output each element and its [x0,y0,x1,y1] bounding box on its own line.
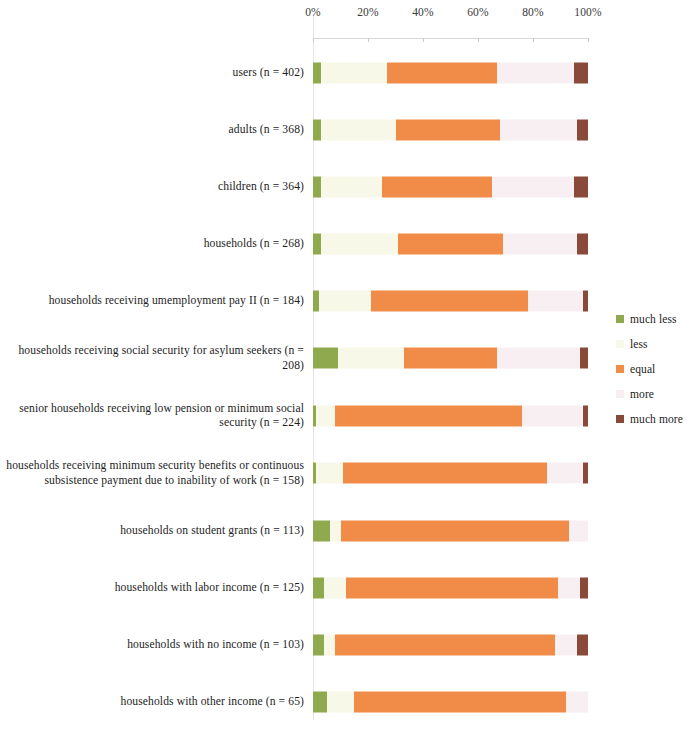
bar-segment-much-more [580,577,588,598]
bar-segment-less [330,520,341,541]
chart-row: households receiving minimum security be… [0,444,691,502]
bar-segment-more [528,290,583,311]
x-tick-mark [368,38,369,42]
bar-segment-much-more [577,233,588,254]
chart-row: households with no income (n = 103) [0,616,691,673]
bar-segment-much-less [313,62,321,83]
bar-segment-much-less [313,176,321,197]
x-tick-label: 20% [357,6,379,18]
chart-row: adults (n = 368) [0,101,691,158]
legend-swatch-icon [616,340,624,348]
bar-segment-less [338,348,404,369]
stacked-bar [313,119,588,140]
x-tick-mark [478,38,479,42]
bar-segment-more [497,62,574,83]
x-tick-mark [313,38,314,42]
row-category-label: users (n = 402) [4,65,304,80]
stacked-bar [313,233,588,254]
bar-segment-equal [354,691,566,712]
stacked-bar [313,691,588,712]
chart-row: households with other income (n = 65) [0,673,691,730]
bar-segment-equal [371,290,528,311]
bar-segment-much-less [313,348,338,369]
chart-row: households with labor income (n = 125) [0,559,691,616]
bar-segment-more [569,520,588,541]
bar-segment-less [321,119,395,140]
bar-segment-more [566,691,588,712]
chart-row: users (n = 402) [0,44,691,101]
row-category-label: senior households receiving low pension … [4,401,304,430]
bar-segment-more [522,405,583,426]
bar-segment-less [324,634,335,655]
row-category-label: children (n = 364) [4,179,304,194]
bar-segment-much-less [313,119,321,140]
row-category-label: households (n = 268) [4,236,304,251]
chart-row: households on student grants (n = 113) [0,502,691,559]
chart-row: senior households receiving low pension … [0,387,691,444]
bar-segment-equal [341,520,569,541]
legend-swatch-icon [616,365,624,373]
row-category-label: adults (n = 368) [4,122,304,137]
bar-segment-equal [346,577,558,598]
bar-segment-much-more [583,463,589,484]
row-category-label: households with other income (n = 65) [4,694,304,709]
row-category-label: households on student grants (n = 113) [4,523,304,538]
bar-segment-much-less [313,233,321,254]
bar-segment-much-less [313,520,330,541]
bar-segment-equal [396,119,501,140]
stacked-bar [313,62,588,83]
x-tick-label: 40% [412,6,434,18]
bar-segment-less [321,233,398,254]
legend-swatch-icon [616,415,624,423]
stacked-bar-chart: 0%20%40%60%80%100% users (n = 402)adults… [0,0,691,732]
x-tick-mark [588,38,589,42]
legend-label: much less [630,313,677,325]
legend-label: less [630,338,648,350]
bar-segment-less [321,176,382,197]
legend-label: equal [630,363,655,375]
bar-segment-much-less [313,634,324,655]
row-category-label: households receiving minimum security be… [4,459,304,488]
bar-segment-more [500,119,577,140]
bar-segment-less [321,62,387,83]
bar-segment-much-more [580,348,588,369]
legend-item: equal [616,356,691,381]
x-tick-mark [423,38,424,42]
x-tick-label: 60% [467,6,489,18]
bar-segment-equal [335,405,522,426]
bar-segment-less [319,290,371,311]
bar-segment-more [558,577,580,598]
chart-row: households receiving umemployment pay II… [0,272,691,329]
row-category-label: households with labor income (n = 125) [4,580,304,595]
bar-segment-equal [387,62,497,83]
bar-segment-more [492,176,575,197]
stacked-bar [313,634,588,655]
bar-segment-equal [335,634,555,655]
chart-row: children (n = 364) [0,158,691,215]
legend-item: less [616,331,691,356]
legend-item: more [616,381,691,406]
bar-segment-more [555,634,577,655]
bar-segment-more [503,233,577,254]
stacked-bar [313,405,588,426]
bar-segment-much-less [313,691,327,712]
x-axis-line [313,38,588,39]
bar-segment-much-more [583,405,589,426]
legend-label: much more [630,413,683,425]
chart-legend: much lesslessequalmoremuch more [616,306,691,431]
legend-label: more [630,388,654,400]
bar-segment-less [316,405,335,426]
bar-segment-much-more [574,62,588,83]
bar-segment-less [316,463,344,484]
stacked-bar [313,348,588,369]
x-tick-label: 0% [305,6,321,18]
row-category-label: households receiving umemployment pay II… [4,293,304,308]
legend-item: much more [616,406,691,431]
x-tick-mark [533,38,534,42]
bar-segment-more [497,348,580,369]
bar-segment-much-more [583,290,589,311]
legend-swatch-icon [616,390,624,398]
bar-segment-less [324,577,346,598]
legend-item: much less [616,306,691,331]
bar-segment-equal [398,233,503,254]
